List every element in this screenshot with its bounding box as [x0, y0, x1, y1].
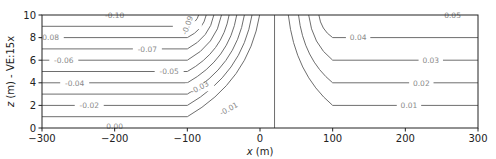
x-tick-label: −300 [28, 133, 55, 144]
contour-value-label: -0.10 [105, 11, 125, 20]
contour-value-label: 0.03 [422, 56, 439, 65]
x-axis-ticks: −300−200−1000100200300 [28, 128, 487, 144]
contour-line [299, 15, 478, 83]
contour-value-label: -0.03 [189, 79, 211, 96]
contour-value-label: -0.04 [65, 79, 85, 88]
contour-value-label: 0.01 [401, 101, 418, 110]
x-tick-label: 200 [396, 133, 415, 144]
contour-value-label: -0.05 [159, 67, 179, 76]
contour-value-label: 0.05 [444, 11, 461, 20]
y-tick-label: 10 [23, 10, 36, 21]
x-tick-label: 0 [257, 133, 263, 144]
contour-line [42, 15, 260, 117]
contour-chart: -0.10-0.09-0.08-0.07-0.06-0.05-0.04-0.03… [0, 0, 496, 159]
x-tick-label: 300 [468, 133, 487, 144]
y-tick-label: 6 [30, 55, 36, 66]
x-tick-label: −200 [101, 133, 128, 144]
y-tick-label: 8 [30, 32, 36, 43]
contour-value-label: -0.08 [40, 33, 60, 42]
x-axis-label: x (m) [246, 146, 274, 157]
x-tick-label: −100 [174, 133, 201, 144]
x-tick-label: 100 [323, 133, 342, 144]
y-tick-label: 4 [30, 77, 36, 88]
y-tick-label: 2 [30, 100, 36, 111]
y-tick-label: 0 [30, 123, 36, 134]
contour-value-label: -0.01 [218, 100, 240, 117]
contour-value-label: 0.04 [350, 33, 367, 42]
contour-value-label: -0.06 [54, 56, 74, 65]
contour-value-label: 0.02 [413, 79, 430, 88]
y-axis-ticks: 0246810 [23, 10, 42, 134]
contour-value-label: -0.02 [80, 101, 100, 110]
y-axis-label: z (m) - VE:15x [5, 36, 16, 108]
contour-value-label: -0.07 [138, 45, 158, 54]
